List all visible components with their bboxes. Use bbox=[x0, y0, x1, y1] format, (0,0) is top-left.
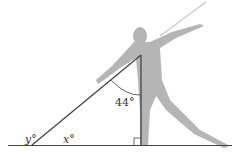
angle-arc bbox=[111, 80, 141, 95]
thrower-silhouette bbox=[96, 24, 230, 148]
angle-x-label: x° bbox=[63, 133, 75, 146]
angle-y-label: y° bbox=[25, 133, 37, 146]
angle-top-label: 44° bbox=[115, 96, 135, 109]
right-angle-marker bbox=[134, 138, 141, 145]
